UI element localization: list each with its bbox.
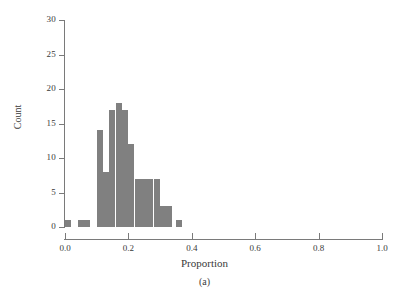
histogram-bar bbox=[135, 179, 141, 227]
histogram-bar bbox=[122, 110, 128, 227]
y-axis-title: Count bbox=[13, 87, 23, 147]
histogram-figure: 051015202530 0.00.20.40.60.81.0 Count Pr… bbox=[0, 0, 409, 300]
histogram-bar bbox=[78, 220, 84, 227]
panel-caption: (a) bbox=[0, 277, 409, 287]
bar-series bbox=[0, 0, 409, 300]
histogram-bar bbox=[160, 206, 166, 227]
histogram-bar bbox=[176, 220, 182, 227]
histogram-bar bbox=[103, 172, 109, 227]
plot-area: 051015202530 0.00.20.40.60.81.0 Count Pr… bbox=[0, 0, 409, 300]
histogram-bar bbox=[65, 220, 71, 227]
histogram-bar bbox=[84, 220, 90, 227]
histogram-bar bbox=[128, 144, 134, 227]
histogram-bar bbox=[147, 179, 153, 227]
x-axis-title: Proportion bbox=[0, 258, 409, 269]
histogram-bar bbox=[141, 179, 147, 227]
histogram-bar bbox=[109, 110, 115, 227]
histogram-bar bbox=[166, 206, 172, 227]
histogram-bar bbox=[154, 179, 160, 227]
histogram-bar bbox=[97, 130, 103, 227]
histogram-bar bbox=[116, 103, 122, 227]
